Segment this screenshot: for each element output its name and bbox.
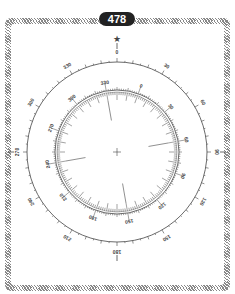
outer-degree-label: 120 (199, 197, 208, 207)
inner-degree-label: 90 (180, 173, 188, 180)
north-star-icon: ★ (113, 34, 121, 44)
outer-degree-label: 330 (62, 61, 72, 70)
outer-degree-label: 210 (62, 234, 72, 243)
outer-degree-label: 300 (26, 97, 35, 107)
compass-rose: 0306090120150180210240270300330330030609… (0, 0, 235, 294)
outer-degree-label: 0 (116, 49, 119, 55)
outer-degree-label: 60 (199, 98, 207, 106)
inner-degree-label: 0 (139, 82, 144, 89)
inner-degree-label: 210 (58, 192, 68, 202)
inner-degree-label: 60 (183, 136, 190, 143)
inner-degree-label: 150 (124, 218, 133, 225)
inner-degree-label: 300 (66, 93, 76, 103)
inner-degree-label: 330 (100, 79, 109, 86)
outer-degree-label: 240 (26, 197, 35, 207)
inner-degree-label: 180 (88, 214, 98, 223)
inner-degree-label: 30 (167, 103, 175, 111)
outer-degree-label: 180 (113, 249, 122, 255)
inner-degree-label: 120 (157, 201, 167, 211)
inner-degree-label: 240 (44, 159, 51, 168)
inner-degree-label: 270 (46, 123, 55, 133)
outer-degree-label: 270 (14, 148, 20, 157)
outer-degree-label: 30 (163, 62, 171, 70)
outer-degree-label: 90 (214, 149, 220, 155)
outer-degree-label: 150 (162, 234, 172, 243)
